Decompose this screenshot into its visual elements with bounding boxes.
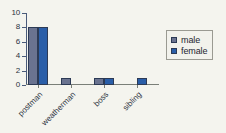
legend-item-female: female bbox=[171, 45, 207, 56]
bar-sibling-female bbox=[137, 78, 147, 85]
bar-boss-female bbox=[104, 78, 114, 85]
y-axis-tick-label: 4 bbox=[0, 52, 20, 60]
legend-item-male: male bbox=[171, 34, 207, 45]
legend-swatch-female bbox=[171, 48, 177, 54]
legend: malefemale bbox=[166, 30, 213, 60]
y-axis-tick-label: 2 bbox=[0, 67, 20, 75]
x-axis-tick bbox=[71, 85, 72, 88]
x-axis-tick bbox=[38, 85, 39, 88]
legend-swatch-male bbox=[171, 37, 177, 43]
bar-postman-female bbox=[38, 27, 48, 85]
plot-area bbox=[26, 13, 157, 85]
legend-label-female: female bbox=[181, 46, 207, 56]
legend-label-male: male bbox=[181, 35, 200, 45]
y-axis-tick-label: 8 bbox=[0, 23, 20, 31]
bar-postman-male bbox=[28, 27, 38, 85]
bar-weatherman-male bbox=[61, 78, 71, 85]
bar-chart-figure: 0246810 postmanweathermanbosssibling mal… bbox=[0, 0, 226, 133]
y-axis-tick bbox=[22, 85, 26, 86]
x-axis-tick bbox=[104, 85, 105, 88]
y-axis-tick-label: 6 bbox=[0, 38, 20, 46]
y-axis-tick-label: 0 bbox=[0, 81, 20, 89]
y-axis-tick-label: 10 bbox=[0, 9, 20, 17]
bar-boss-male bbox=[94, 78, 104, 85]
x-axis-tick bbox=[137, 85, 138, 88]
